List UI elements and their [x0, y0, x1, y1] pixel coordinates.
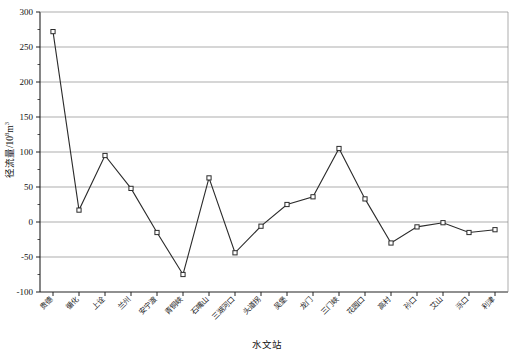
y-axis-ticks: -100-50050100150200250300 [17, 7, 41, 297]
data-line [53, 32, 495, 275]
x-axis-title: 水文站 [0, 337, 518, 351]
data-point-marker [311, 195, 315, 199]
y-tick-label: 300 [20, 7, 34, 17]
data-point-marker [493, 228, 497, 232]
series-line [53, 32, 495, 275]
y-tick-label: -50 [21, 252, 33, 262]
x-category-label: 上诠 [90, 294, 107, 311]
data-point-marker [155, 230, 159, 234]
x-category-label: 头道拐 [241, 295, 262, 316]
x-category-label: 龙门 [298, 295, 314, 311]
x-category-label: 利津 [480, 294, 497, 311]
y-tick-label: 100 [20, 147, 34, 157]
x-category-label: 安宁渡 [137, 294, 159, 316]
x-category-label: 青铜峡 [163, 294, 185, 316]
data-point-marker [77, 208, 81, 212]
x-category-label: 吴堡 [272, 294, 289, 311]
x-axis-title-text: 水文站 [252, 340, 282, 350]
data-point-marker [285, 202, 289, 206]
x-axis-ticks [53, 292, 495, 296]
x-category-label: 艾山 [428, 295, 444, 311]
data-point-marker [129, 186, 133, 190]
x-category-label: 高村 [376, 294, 393, 311]
data-point-marker [207, 176, 211, 180]
y-tick-label: 200 [20, 77, 34, 87]
y-tick-label: 50 [24, 182, 34, 192]
x-category-label: 孙口 [402, 295, 418, 311]
gridlines [40, 47, 508, 257]
data-markers [51, 30, 497, 277]
data-point-marker [337, 146, 341, 150]
data-point-marker [415, 225, 419, 229]
data-point-marker [441, 221, 445, 225]
runoff-line-chart: 径流量/108m3 -100-50050100150200250300 贵德循化… [0, 0, 518, 358]
x-category-label: 贵德 [38, 294, 55, 311]
x-category-label: 三门峡 [319, 294, 341, 316]
x-category-label: 花园口 [345, 295, 366, 316]
data-point-marker [181, 272, 185, 276]
data-point-marker [259, 224, 263, 228]
plot-area: -100-50050100150200250300 贵德循化上诠兰州安宁渡青铜峡… [0, 0, 518, 358]
y-tick-label: -100 [17, 287, 34, 297]
x-category-label: 泺口 [454, 295, 470, 311]
data-point-marker [363, 197, 367, 201]
x-category-label: 兰州 [116, 295, 132, 311]
data-point-marker [389, 241, 393, 245]
data-point-marker [103, 153, 107, 157]
data-point-marker [467, 230, 471, 234]
y-tick-label: 250 [20, 42, 34, 52]
x-category-label: 循化 [64, 294, 81, 311]
y-tick-label: 150 [20, 112, 34, 122]
data-point-marker [51, 30, 55, 34]
x-category-label: 石嘴山 [189, 295, 210, 316]
data-point-marker [233, 251, 237, 255]
x-category-label: 三湖河口 [210, 295, 236, 321]
y-tick-label: 0 [29, 217, 34, 227]
x-axis-category-labels: 贵德循化上诠兰州安宁渡青铜峡石嘴山三湖河口头道拐吴堡龙门三门峡花园口高村孙口艾山… [38, 294, 497, 321]
